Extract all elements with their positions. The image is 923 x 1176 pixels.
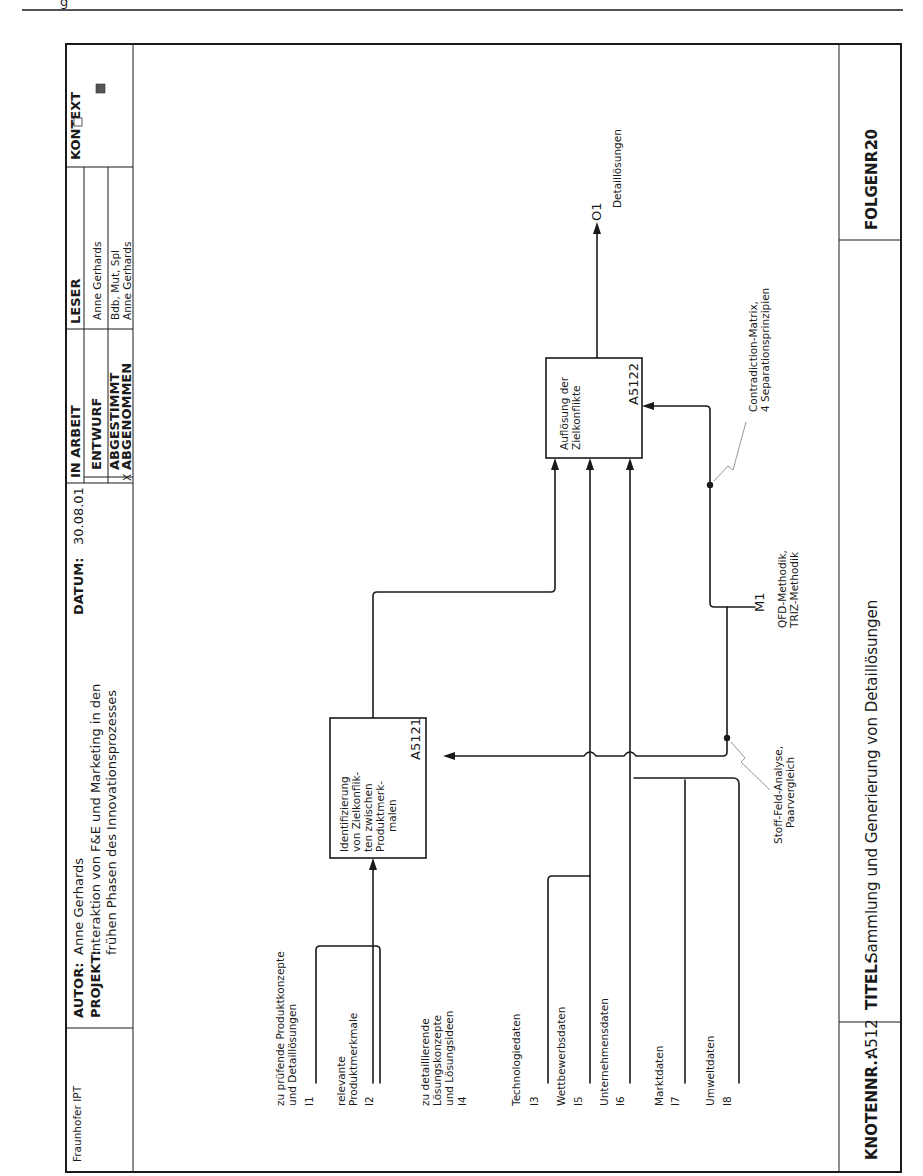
input-label-line: Technologiedaten bbox=[510, 1014, 522, 1107]
arrowhead-A5122-input-1 bbox=[551, 458, 559, 470]
junction-dot-upper bbox=[707, 482, 713, 488]
status-header: IN ARBEIT bbox=[68, 405, 83, 478]
input-label-line: Marktdaten bbox=[653, 1046, 665, 1106]
squiggle-contradiction bbox=[714, 422, 746, 481]
activity-text-line: malen bbox=[386, 799, 398, 832]
activity-text-line: von Zielkonflik- bbox=[350, 771, 362, 852]
activity-id: A5122 bbox=[626, 363, 641, 405]
arrowhead-A5121-control bbox=[443, 752, 455, 760]
arrow-A5121-to-A5122 bbox=[373, 470, 555, 718]
output-label-line: Detaillösungen bbox=[611, 129, 623, 208]
arrowhead-O1 bbox=[593, 222, 601, 234]
activity-box-A5121[interactable]: Identifizierung von Zielkonflik- ten zwi… bbox=[330, 718, 426, 858]
project-line-2: frühen Phasen des Innovationsprozesses bbox=[104, 690, 119, 955]
input-I6: Unternehmensdaten I6 bbox=[598, 998, 626, 1106]
input-labels: zu prüfende Produktkonzepte und Detaillö… bbox=[274, 951, 733, 1107]
arrowhead-A5122-input-3 bbox=[626, 458, 634, 470]
annotation-contradiction: Contradiction-Matrix, 4 Separationsprinz… bbox=[747, 288, 771, 412]
status-label-abgenommen: ABGENOMMEN bbox=[119, 363, 134, 470]
reader-abgestimmt: Bdb, Mut, Spl bbox=[109, 250, 121, 320]
footer-strip: KNOTENNR.: A512 TITEL: Sammlung und Gene… bbox=[839, 44, 901, 1172]
control-label-line: QFD-Methodik, bbox=[776, 550, 788, 628]
activity-text-line: Produktmerk- bbox=[374, 781, 386, 852]
control-code: M1 bbox=[752, 593, 767, 613]
input-code: I5 bbox=[572, 1096, 584, 1106]
input-I4: zu detaillierende Lösungskonzepte und Lö… bbox=[419, 1011, 468, 1106]
project-line-1: Interaktion von F&E und Marketing in den bbox=[88, 684, 103, 955]
squiggle-stoff-feld bbox=[731, 742, 770, 790]
annotation-line: Contradiction-Matrix, bbox=[747, 301, 759, 412]
arrowhead-A5122-control bbox=[642, 402, 654, 410]
activity-text-line: ten zwischen bbox=[362, 783, 374, 852]
reader-entwurf: Anne Gerhards bbox=[91, 242, 103, 320]
project-label: PROJEKT: bbox=[88, 950, 103, 1018]
control-label-line: TRIZ-Methodik bbox=[788, 551, 800, 629]
control-M1: M1 QFD-Methodik, TRIZ-Methodik bbox=[752, 550, 800, 629]
date-value: 30.08.01 bbox=[71, 487, 86, 545]
input-label-line: zu detaillierende bbox=[419, 1018, 431, 1106]
input-I1: zu prüfende Produktkonzepte und Detaillö… bbox=[274, 951, 315, 1106]
author-label: AUTOR: bbox=[71, 963, 86, 1018]
annotation-line: 4 Separationsprinzipien bbox=[759, 288, 771, 412]
activity-box-A5122[interactable]: Auflösung der Zielkonflikte A5122 bbox=[546, 358, 642, 458]
organization-name: Fraunhofer IPT bbox=[71, 1085, 83, 1162]
annotation-stoff-feld: Stoff-Feld-Analyse, Paarvergleich bbox=[772, 746, 796, 844]
idef0-diagram-page: g Fraunhofer IPT AUTOR: Anne Gerhards DA… bbox=[0, 0, 923, 1176]
input-label-line: Wettbewerbsdaten bbox=[555, 1007, 567, 1106]
arrow-I8 bbox=[634, 778, 739, 1083]
input-code: I8 bbox=[721, 1096, 733, 1106]
activity-text-line: Auflösung der bbox=[558, 376, 570, 450]
output-code: O1 bbox=[589, 202, 604, 221]
input-code: I6 bbox=[614, 1096, 626, 1106]
input-code: I4 bbox=[456, 1096, 468, 1106]
sequence-number-label: FOLGENR.: bbox=[863, 139, 881, 230]
input-label-line: Produktmerkmale bbox=[347, 1013, 359, 1106]
title-value: Sammlung und Generierung von Detaillösun… bbox=[863, 600, 881, 962]
node-number-label: KNOTENNR.: bbox=[863, 1054, 881, 1160]
input-I3: Technologiedaten I3 bbox=[510, 1014, 540, 1107]
arrow-M1-trunk bbox=[727, 607, 755, 738]
input-label-line: zu prüfende Produktkonzepte bbox=[274, 951, 286, 1106]
input-code: I1 bbox=[303, 1096, 315, 1106]
arrowhead-A5122-input-2 bbox=[586, 458, 594, 470]
input-label-line: und Detaillösungen bbox=[286, 1004, 298, 1106]
sequence-number-value: 20 bbox=[863, 129, 881, 150]
arrow-control-to-A5121 bbox=[455, 738, 727, 756]
input-label-line: relevante bbox=[335, 1056, 347, 1106]
input-I5: Wettbewerbsdaten I5 bbox=[555, 1007, 584, 1106]
node-number-value: A512 bbox=[863, 1019, 881, 1058]
reader-header: LESER bbox=[68, 279, 83, 324]
status-label-entwurf: ENTWURF bbox=[89, 398, 104, 470]
input-I7: Marktdaten I7 bbox=[653, 1046, 681, 1106]
activity-text-line: Zielkonflikte bbox=[570, 386, 582, 450]
context-current-box-icon bbox=[96, 84, 105, 93]
annotation-line: Stoff-Feld-Analyse, bbox=[772, 746, 784, 844]
status-mark-abgenommen: X bbox=[121, 474, 133, 481]
input-code: I7 bbox=[669, 1096, 681, 1106]
title-block: Fraunhofer IPT AUTOR: Anne Gerhards DATU… bbox=[66, 44, 134, 1172]
annotation-line: Paarvergleich bbox=[784, 757, 796, 828]
input-code: I2 bbox=[363, 1096, 375, 1106]
activity-id: A5121 bbox=[408, 718, 423, 760]
arrow-control-to-A5122 bbox=[654, 406, 727, 607]
arrowhead-A5121-input bbox=[369, 858, 377, 870]
date-label: DATUM: bbox=[71, 558, 86, 615]
output-O1: O1 Detaillösungen bbox=[589, 129, 623, 221]
input-code: I3 bbox=[528, 1096, 540, 1106]
context-parent-box-icon bbox=[74, 118, 82, 126]
running-head: g bbox=[60, 0, 68, 9]
input-I8: Umweltdaten I8 bbox=[704, 1036, 733, 1106]
title-label: TITEL: bbox=[863, 958, 881, 1010]
activity-text-line: Identifizierung bbox=[338, 776, 350, 852]
input-label-line: Unternehmensdaten bbox=[598, 998, 610, 1106]
author-value: Anne Gerhards bbox=[71, 858, 86, 955]
diagram-arrows bbox=[316, 222, 770, 1083]
input-label-line: und Lösungsideen bbox=[443, 1011, 455, 1106]
input-label-line: Lösungskonzepte bbox=[431, 1015, 443, 1106]
input-I2: relevante Produktmerkmale I2 bbox=[335, 1013, 375, 1106]
input-label-line: Umweltdaten bbox=[704, 1036, 716, 1106]
reader-abgenommen: Anne Gerhards bbox=[121, 242, 133, 320]
